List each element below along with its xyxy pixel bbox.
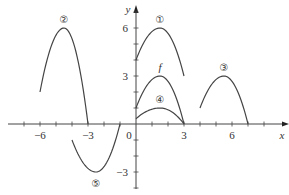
x-tick-label: 0 — [126, 129, 132, 141]
y-tick-label: 3 — [123, 70, 129, 82]
curve-label-4: ④ — [156, 94, 165, 105]
y-tick-label: 6 — [123, 22, 129, 34]
curve-4 — [136, 108, 184, 124]
curve-2 — [40, 28, 88, 124]
x-tick-label: 3 — [181, 129, 187, 141]
y-tick-label: −3 — [116, 166, 128, 178]
axes — [8, 5, 289, 189]
curve-label-5: ⑤ — [92, 178, 101, 189]
curves — [40, 28, 248, 172]
x-tick-label: −3 — [82, 129, 94, 141]
x-tick-label: −6 — [34, 129, 46, 141]
curve-label-3: ③ — [220, 62, 229, 73]
curve-label-1: ① — [156, 14, 165, 25]
curve-5 — [72, 124, 120, 172]
labels: −6−3036−336xyf①②③④⑤ — [34, 3, 284, 189]
curve-label-f: f — [158, 61, 163, 73]
function-transformations-chart: −6−3036−336xyf①②③④⑤ — [0, 0, 289, 195]
curve-label-2: ② — [60, 14, 69, 25]
y-axis-label: y — [125, 3, 131, 15]
x-arrow-icon — [282, 122, 289, 127]
x-axis-label: x — [279, 129, 285, 141]
curve-3 — [200, 76, 248, 124]
x-tick-label: 6 — [229, 129, 235, 141]
